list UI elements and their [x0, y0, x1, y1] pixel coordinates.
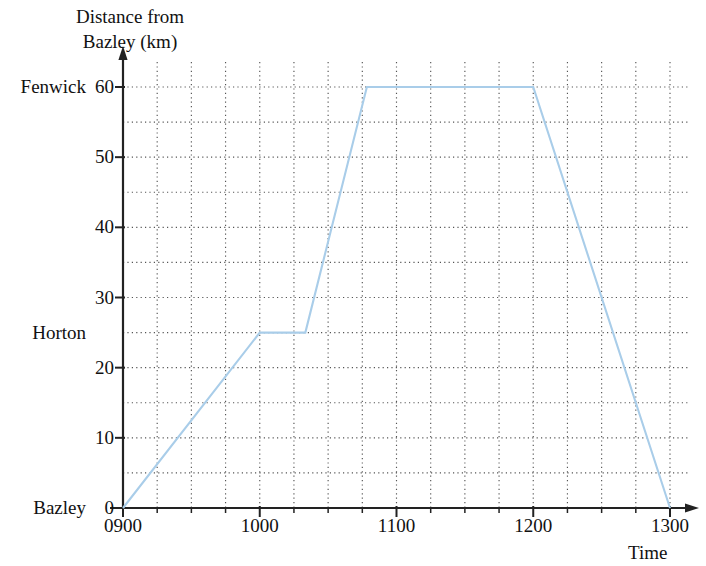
axis-lines	[110, 46, 699, 513]
y-axis-title-line-2: Bazley (km)	[55, 29, 205, 54]
y-axis-tick-label: 50	[80, 147, 114, 166]
journey-line	[123, 87, 670, 508]
x-axis-tick-label: 1000	[220, 516, 300, 535]
axis-tick-marks	[115, 87, 670, 517]
x-axis-tick-label: 1200	[493, 516, 573, 535]
place-label-fenwick: Fenwick	[2, 77, 86, 96]
x-axis-tick-label: 1100	[357, 516, 437, 535]
place-label-horton: Horton	[2, 323, 86, 342]
y-axis-tick-label: 10	[80, 428, 114, 447]
distance-time-graph: Distance from Bazley (km) Time 605040302…	[0, 0, 706, 566]
grid-minor-horizontal-lines	[123, 87, 690, 473]
y-axis-title: Distance from Bazley (km)	[55, 4, 205, 54]
grid-minor-vertical-lines	[157, 62, 670, 508]
y-axis-tick-label: 20	[80, 358, 114, 377]
y-axis-tick-label: 30	[80, 288, 114, 307]
x-axis-arrowhead	[685, 503, 699, 512]
x-axis-title: Time	[628, 540, 698, 565]
y-axis-tick-label: 40	[80, 217, 114, 236]
x-axis-tick-label: 1300	[630, 516, 706, 535]
place-label-bazley: Bazley	[2, 498, 86, 517]
x-axis-tick-label: 0900	[83, 516, 163, 535]
y-axis-title-line-1: Distance from	[55, 4, 205, 29]
